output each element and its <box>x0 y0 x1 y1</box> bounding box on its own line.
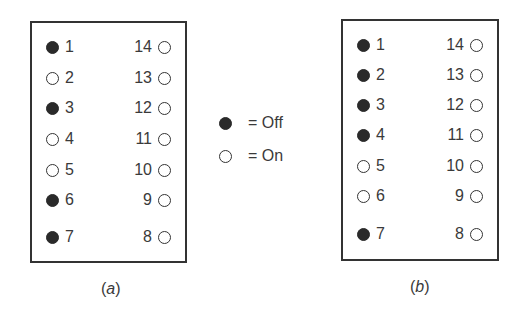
switch-row: 312 <box>32 98 185 118</box>
switch-number: 9 <box>143 191 152 209</box>
open-circle-icon <box>158 72 171 85</box>
switch-number: 6 <box>376 187 385 205</box>
switch-number: 10 <box>446 157 464 175</box>
caption-b: (b) <box>410 278 430 296</box>
filled-circle-icon <box>219 117 232 130</box>
switch-row: 78 <box>343 224 497 244</box>
legend-off: = Off <box>219 114 283 132</box>
switch-4: 4 <box>46 129 74 149</box>
open-circle-icon <box>470 160 483 173</box>
switch-5: 5 <box>357 156 385 176</box>
open-circle-icon <box>46 72 59 85</box>
legend-off-label: = Off <box>248 114 283 132</box>
open-circle-icon <box>470 228 483 241</box>
switch-6: 6 <box>46 190 74 210</box>
switch-row: 510 <box>343 156 497 176</box>
legend-on: = On <box>219 147 283 165</box>
switch-2: 2 <box>357 65 385 85</box>
switch-9: 9 <box>143 190 171 210</box>
switch-12: 12 <box>134 98 171 118</box>
open-circle-icon <box>158 133 171 146</box>
switch-number: 11 <box>447 126 464 144</box>
open-circle-icon <box>158 231 171 244</box>
switch-row: 78 <box>32 227 185 247</box>
open-circle-icon <box>357 190 370 203</box>
switch-number: 5 <box>65 161 74 179</box>
switch-11: 11 <box>135 129 171 149</box>
switch-number: 11 <box>135 130 152 148</box>
switch-3: 3 <box>46 98 74 118</box>
switch-row: 510 <box>32 160 185 180</box>
switch-panel-b: 1142133124115106978 <box>341 19 499 261</box>
switch-number: 2 <box>65 69 74 87</box>
filled-circle-icon <box>357 129 370 142</box>
switch-number: 3 <box>65 99 74 117</box>
switch-4: 4 <box>357 125 385 145</box>
switch-number: 7 <box>65 228 74 246</box>
switch-number: 7 <box>376 225 385 243</box>
switch-number: 2 <box>376 66 385 84</box>
switch-number: 13 <box>446 66 464 84</box>
open-circle-icon <box>470 39 483 52</box>
switch-number: 10 <box>134 161 152 179</box>
switch-row: 114 <box>343 35 497 55</box>
open-circle-icon <box>46 133 59 146</box>
switch-number: 1 <box>376 36 385 54</box>
filled-circle-icon <box>357 99 370 112</box>
open-circle-icon <box>470 69 483 82</box>
switch-number: 4 <box>65 130 74 148</box>
open-circle-icon <box>357 160 370 173</box>
switch-row: 69 <box>343 186 497 206</box>
switch-panel-a: 1142133124115106978 <box>30 21 187 263</box>
switch-number: 8 <box>143 228 152 246</box>
switch-1: 1 <box>357 35 385 55</box>
caption-a-letter: a <box>106 280 115 297</box>
open-circle-icon <box>158 41 171 54</box>
switch-11: 11 <box>447 125 483 145</box>
open-circle-icon <box>158 194 171 207</box>
legend-on-label: = On <box>248 147 283 165</box>
switch-number: 13 <box>134 69 152 87</box>
switch-number: 12 <box>134 99 152 117</box>
open-circle-icon <box>158 164 171 177</box>
switch-8: 8 <box>143 227 171 247</box>
switch-row: 213 <box>32 68 185 88</box>
switch-9: 9 <box>455 186 483 206</box>
switch-number: 12 <box>446 96 464 114</box>
switch-14: 14 <box>446 35 483 55</box>
open-circle-icon <box>470 129 483 142</box>
switch-2: 2 <box>46 68 74 88</box>
filled-circle-icon <box>46 194 59 207</box>
open-circle-icon <box>158 102 171 115</box>
switch-13: 13 <box>446 65 483 85</box>
switch-number: 14 <box>134 38 152 56</box>
switch-6: 6 <box>357 186 385 206</box>
switch-14: 14 <box>134 37 171 57</box>
filled-circle-icon <box>357 39 370 52</box>
switch-row: 69 <box>32 190 185 210</box>
open-circle-icon <box>46 164 59 177</box>
switch-number: 1 <box>65 38 74 56</box>
switch-row: 411 <box>343 125 497 145</box>
switch-number: 6 <box>65 191 74 209</box>
caption-a: (a) <box>101 280 121 298</box>
switch-number: 5 <box>376 157 385 175</box>
switch-7: 7 <box>46 227 74 247</box>
switch-row: 411 <box>32 129 185 149</box>
switch-5: 5 <box>46 160 74 180</box>
filled-circle-icon <box>46 231 59 244</box>
filled-circle-icon <box>46 102 59 115</box>
switch-row: 312 <box>343 95 497 115</box>
switch-number: 8 <box>455 225 464 243</box>
switch-row: 114 <box>32 37 185 57</box>
switch-8: 8 <box>455 224 483 244</box>
caption-b-letter: b <box>415 278 424 295</box>
switch-number: 9 <box>455 187 464 205</box>
filled-circle-icon <box>357 228 370 241</box>
switch-number: 14 <box>446 36 464 54</box>
open-circle-icon <box>470 99 483 112</box>
switch-10: 10 <box>134 160 171 180</box>
filled-circle-icon <box>46 41 59 54</box>
switch-number: 3 <box>376 96 385 114</box>
open-circle-icon <box>219 150 232 163</box>
